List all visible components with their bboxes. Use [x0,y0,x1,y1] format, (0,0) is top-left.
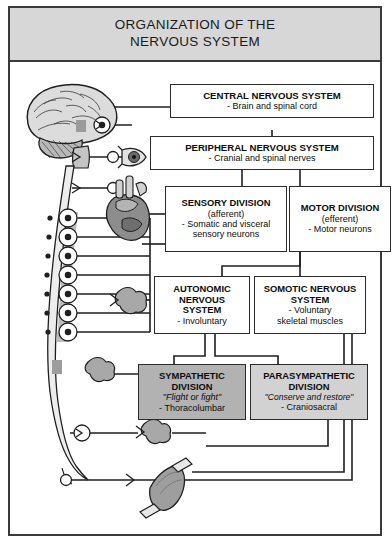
autonomic-detail: - Involuntary [177,316,227,326]
connector-autonomic-to-parasympathetic [215,334,278,364]
diagram-canvas: CENTRAL NERVOUS SYSTEM - Brain and spina… [10,62,380,536]
somatic-detail-1: - Voluntary [288,305,331,315]
box-parasympathetic-division[interactable]: PARASYMPATHETIC DIVISION "Conserve and r… [250,364,368,420]
pns-detail: - Cranial and spinal nerves [208,153,315,163]
motor-heading: MOTOR DIVISION [301,203,379,214]
box-sensory-division[interactable]: SENSORY DIVISION (afferent) - Somatic an… [165,186,287,252]
box-somatic-nervous-system[interactable]: SOMOTIC NERVOUS SYSTEM - Voluntary skele… [254,276,366,334]
motor-detail: - Motor neurons [308,224,372,234]
parasympathetic-heading-2: DIVISION [288,382,329,393]
connector-autonomic-to-sympathetic [174,334,205,364]
parasympathetic-detail: - Craniosacral [281,402,337,412]
title-line-2: NERVOUS SYSTEM [115,34,275,51]
cns-detail: - Brain and spinal cord [227,101,317,111]
cns-heading: CENTRAL NERVOUS SYSTEM [203,91,341,102]
sensory-heading: SENSORY DIVISION [181,198,270,209]
page-title: ORGANIZATION OF THE NERVOUS SYSTEM [115,17,275,51]
diagram-title-bar: ORGANIZATION OF THE NERVOUS SYSTEM [10,8,380,62]
sympathetic-quote: "Flight or fight" [163,392,221,402]
motor-sub: (efferent) [322,214,358,224]
sensory-detail-2: sensory neurons [193,229,260,239]
sympathetic-heading-2: DIVISION [171,382,212,393]
sympathetic-detail: - Thoracolumbar [159,403,225,413]
pns-heading: PERIPHERAL NERVOUS SYSTEM [185,143,339,154]
box-central-nervous-system[interactable]: CENTRAL NERVOUS SYSTEM - Brain and spina… [170,84,374,118]
box-peripheral-nervous-system[interactable]: PERIPHERAL NERVOUS SYSTEM - Cranial and … [150,136,374,170]
somatic-detail-2: skeletal muscles [277,316,343,326]
parasympathetic-quote: "Conserve and restore" [265,393,354,403]
box-autonomic-nervous-system[interactable]: AUTONOMIC NERVOUS SYSTEM - Involuntary [154,276,250,334]
somatic-heading-2: SYSTEM [291,295,330,306]
box-sympathetic-division[interactable]: SYMPATHETIC DIVISION "Flight or fight" -… [138,364,246,420]
sensory-sub: (afferent) [208,209,244,219]
connector-motor-to-autonomic [222,252,300,276]
autonomic-heading-3: SYSTEM [183,305,222,316]
box-motor-division[interactable]: MOTOR DIVISION (efferent) - Motor neuron… [289,186,391,252]
sensory-detail-1: - Somatic and visceral [182,219,271,229]
diagram-frame: ORGANIZATION OF THE NERVOUS SYSTEM [8,6,382,536]
connector-parasympathetic-out [206,418,328,446]
title-line-1: ORGANIZATION OF THE [115,17,275,34]
